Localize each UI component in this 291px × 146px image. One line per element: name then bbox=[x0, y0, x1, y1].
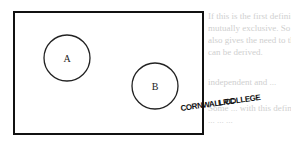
venn-diagram: A B bbox=[0, 0, 291, 146]
set-a-label: A bbox=[63, 53, 71, 64]
set-b-label: B bbox=[152, 81, 159, 92]
